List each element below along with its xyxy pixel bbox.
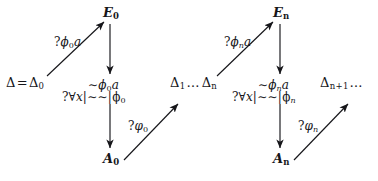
node-An: An (273, 152, 289, 167)
double-negation: ∼∼ (87, 90, 107, 104)
varphi-subscript: n (313, 125, 318, 134)
variable-x: x (76, 90, 83, 104)
delta-subscript: 0 (39, 81, 45, 91)
argument-a: a (244, 35, 251, 49)
delta-subscript: n+1 (330, 81, 349, 91)
phi-symbol: ϕ (231, 35, 239, 49)
node-En: En (273, 6, 289, 21)
varphi-symbol: φ (305, 119, 314, 133)
equals-sign: = (16, 75, 29, 90)
node-A0: A0 (103, 152, 119, 167)
delta-symbol-2: Δ (29, 75, 39, 90)
phi-subscript: n (290, 96, 295, 105)
forall-symbol: ∀ (239, 90, 246, 104)
varphi-symbol: φ (135, 119, 144, 133)
edge-label-up-left: ?ϕ0a (54, 36, 81, 50)
formula-label-left: ?∀x|∼∼|ϕ0 (62, 91, 126, 105)
A-symbol: A (273, 151, 283, 166)
diagram-canvas: Δ=Δ0 E0 A0 ?ϕ0a ∼ϕ0a ?∀x|∼∼|ϕ0 ?φ0 Δ1…Δn… (0, 0, 378, 181)
phi-subscript: 0 (120, 96, 125, 105)
E-subscript: 0 (113, 11, 119, 21)
delta-symbol: Δ (320, 75, 330, 90)
double-negation: ∼∼ (257, 90, 277, 104)
edge-label-up-right: ?ϕna (224, 36, 251, 50)
E-symbol: E (273, 5, 283, 20)
ellipsis: … (185, 75, 201, 90)
delta-symbol: Δ (170, 75, 180, 90)
sequence-deltan-plus-1: Δn+1… (320, 76, 365, 91)
variable-x: x (246, 90, 253, 104)
sequence-delta1-to-deltan: Δ1…Δn (170, 76, 217, 91)
forall-symbol: ∀ (69, 90, 76, 104)
delta-subscript-2: n (211, 81, 217, 91)
delta-symbol-2: Δ (202, 75, 212, 90)
formula-label-right: ?∀x|∼∼|ϕn (232, 91, 296, 105)
E-subscript: n (283, 11, 289, 21)
argument-a: a (74, 35, 81, 49)
delta-symbol: Δ (6, 75, 16, 90)
A-symbol: A (103, 151, 113, 166)
E-symbol: E (103, 5, 113, 20)
A-subscript: 0 (113, 157, 119, 167)
node-E0: E0 (103, 6, 119, 21)
edge-label-out-right: ?φn (298, 120, 318, 134)
A-subscript: n (283, 157, 289, 167)
ellipsis: … (349, 75, 365, 90)
edge-label-out-left: ?φ0 (128, 120, 148, 134)
node-delta-start: Δ=Δ0 (6, 76, 44, 91)
phi-symbol: ϕ (61, 35, 69, 49)
varphi-subscript: 0 (143, 125, 148, 134)
